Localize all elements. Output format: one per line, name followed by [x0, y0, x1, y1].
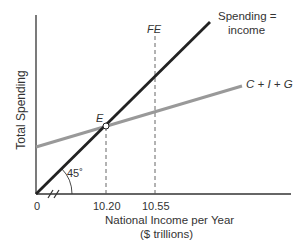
spending-line-label-2: income [228, 25, 265, 37]
e-label: E [96, 113, 103, 124]
fe-label: FE [147, 24, 161, 35]
angle-label: 45˚ [67, 168, 83, 179]
x-tick-0: 0 [34, 201, 40, 212]
spending-equals-income-line [36, 22, 210, 194]
cig-label: C + I + G [246, 79, 293, 91]
x-tick-10-55: 10.55 [142, 201, 170, 212]
cig-line [36, 86, 242, 147]
x-axis-label: National Income per Year [105, 215, 234, 227]
x-axis-units: ($ trillions) [140, 229, 193, 241]
y-axis-label: Total Spending [15, 65, 27, 155]
equilibrium-point [103, 123, 109, 129]
spending-line-label-1: Spending = [218, 11, 277, 23]
x-tick-10-20: 10.20 [93, 201, 121, 212]
